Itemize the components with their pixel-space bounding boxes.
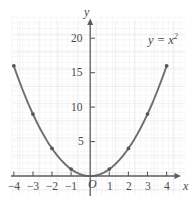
data-point xyxy=(69,167,73,171)
x-tick-label-4: 4 xyxy=(164,181,170,193)
y-tick-label-15: 15 xyxy=(71,67,83,79)
origin-label: O xyxy=(88,178,97,190)
y-tick-label-5: 5 xyxy=(78,136,84,148)
x-tick-label-1: 1 xyxy=(107,181,113,193)
x-tick-label-neg2: −2 xyxy=(46,181,58,193)
data-point xyxy=(146,112,150,116)
x-tick-label-2: 2 xyxy=(126,181,132,193)
x-axis-label: x xyxy=(183,180,188,192)
data-point xyxy=(127,147,131,151)
x-tick-label-neg3: −3 xyxy=(27,181,39,193)
data-point xyxy=(50,147,54,151)
curve-equation-label: y = x2 xyxy=(148,33,178,47)
data-point xyxy=(107,167,111,171)
y-tick-label-20: 20 xyxy=(71,33,83,45)
x-tick-label-neg4: −4 xyxy=(8,181,20,193)
data-point xyxy=(12,64,16,68)
data-point xyxy=(165,64,169,68)
equation-text: y = x xyxy=(148,33,174,47)
x-tick-label-3: 3 xyxy=(145,181,151,193)
y-axis-label: y xyxy=(84,6,89,18)
graph-canvas xyxy=(0,0,196,206)
parabola-graph-figure: 20 15 10 5 −4 −3 −2 −1 1 2 3 4 O y x y =… xyxy=(0,0,196,206)
equation-exponent: 2 xyxy=(174,32,178,41)
data-point xyxy=(31,112,35,116)
y-tick-label-10: 10 xyxy=(71,102,83,114)
x-tick-label-neg1: −1 xyxy=(65,181,77,193)
